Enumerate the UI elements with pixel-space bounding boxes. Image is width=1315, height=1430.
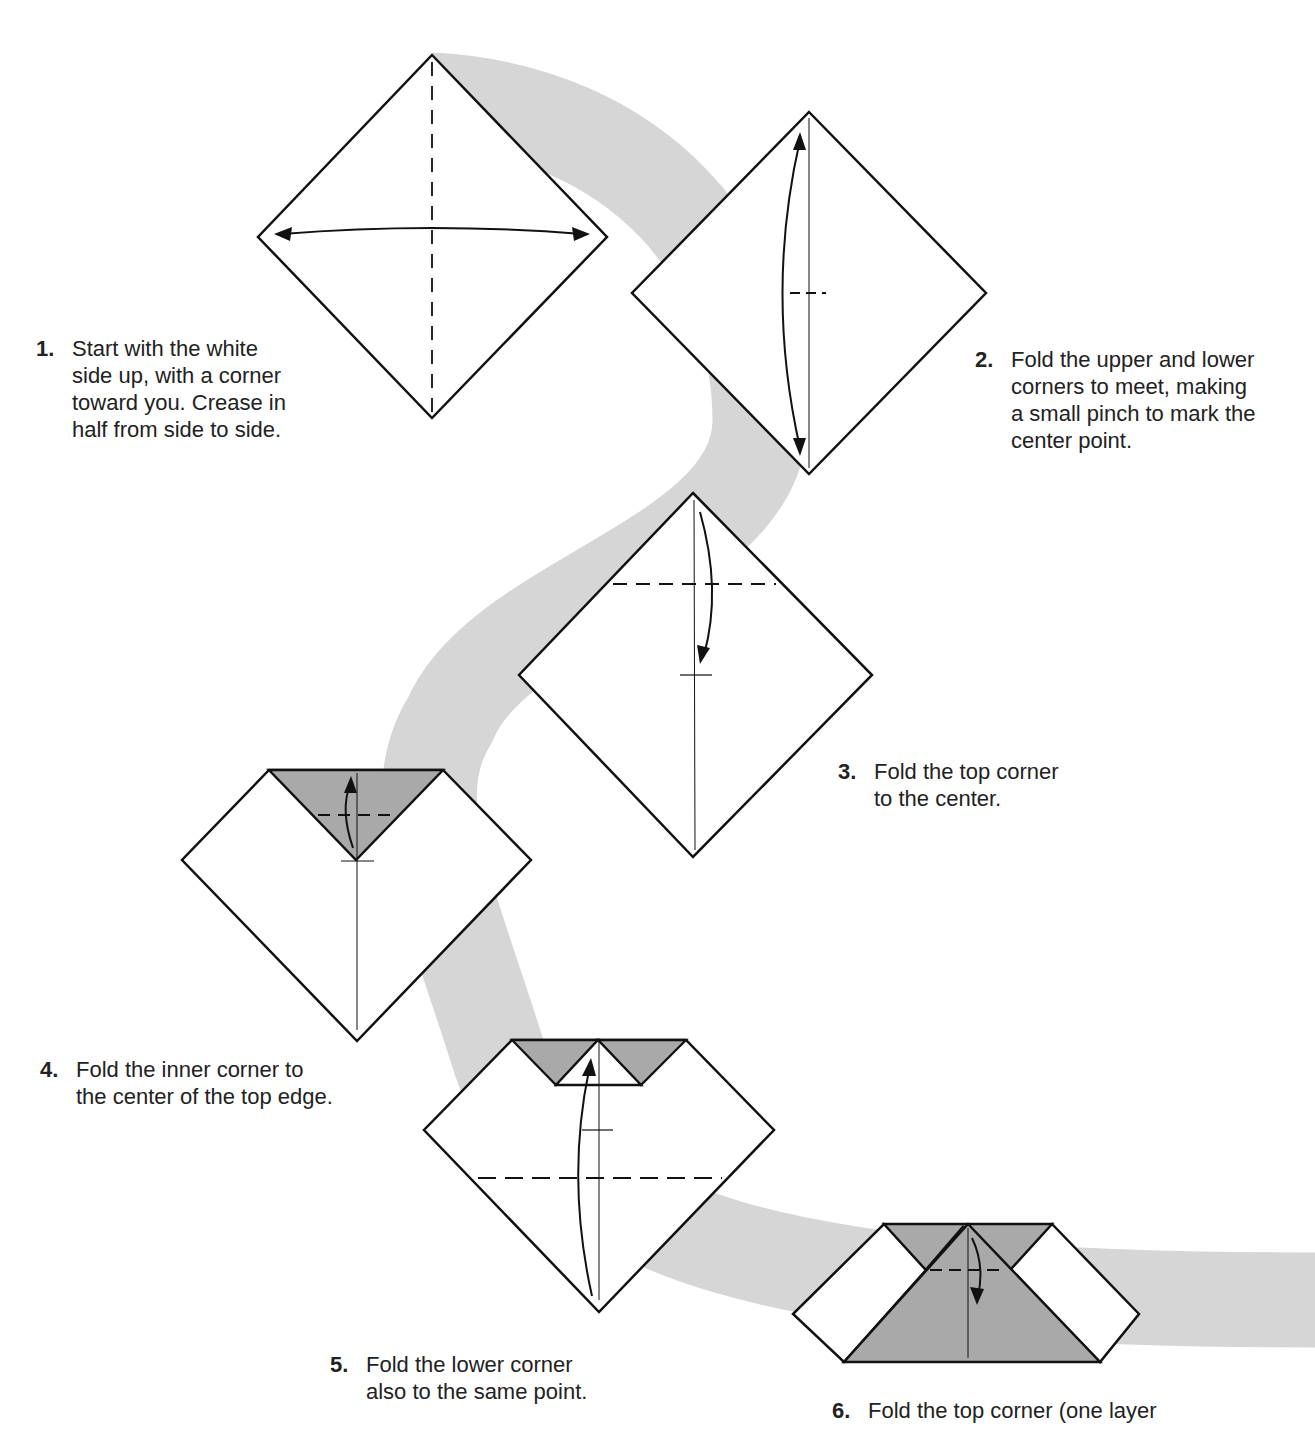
step-1-caption: 1. Start with the white side up, with a … <box>36 335 336 443</box>
step-6-caption: 6. Fold the top corner (one layer <box>832 1397 1312 1424</box>
step-6-text: Fold the top corner (one layer <box>868 1397 1312 1424</box>
step-5-text: Fold the lower corner also to the same p… <box>366 1351 650 1405</box>
step-6-number: 6. <box>832 1397 850 1424</box>
step-5-number: 5. <box>330 1351 348 1378</box>
step-2-number: 2. <box>975 346 993 373</box>
step-2-caption: 2. Fold the upper and lower corners to m… <box>975 346 1315 454</box>
step-1-text: Start with the white side up, with a cor… <box>72 335 336 443</box>
step-4-number: 4. <box>40 1056 58 1083</box>
step-5-caption: 5. Fold the lower corner also to the sam… <box>330 1351 650 1405</box>
step-3-caption: 3. Fold the top corner to the center. <box>838 758 1098 812</box>
step-4-caption: 4. Fold the inner corner to the center o… <box>40 1056 400 1110</box>
step-3-number: 3. <box>838 758 856 785</box>
step-3-diagram <box>519 493 872 857</box>
step-3-text: Fold the top corner to the center. <box>874 758 1098 812</box>
origami-diagram-canvas <box>0 0 1315 1430</box>
step-2-text: Fold the upper and lower corners to meet… <box>1011 346 1315 454</box>
step-1-number: 1. <box>36 335 54 362</box>
step-4-text: Fold the inner corner to the center of t… <box>76 1056 400 1110</box>
